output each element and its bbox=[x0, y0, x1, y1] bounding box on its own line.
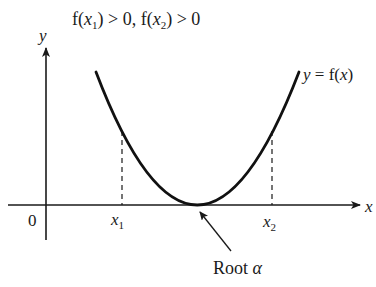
x-axis-label: x bbox=[365, 198, 373, 215]
curve-label-x: x bbox=[340, 65, 348, 84]
curve-f bbox=[96, 72, 299, 205]
title-var-x2: x bbox=[153, 9, 161, 29]
x2-var: x bbox=[263, 212, 271, 231]
y-axis-label: y bbox=[39, 27, 47, 44]
curve-label-y: y bbox=[303, 65, 311, 84]
root-pointer-arrow bbox=[200, 212, 231, 251]
condition-title: f(x1) > 0, f(x2) > 0 bbox=[72, 10, 200, 31]
title-var-x1: x bbox=[84, 9, 92, 29]
curve-label-eq: = f( bbox=[311, 65, 340, 84]
curve-label: y = f(x) bbox=[303, 66, 353, 83]
title-part: ) > 0 bbox=[166, 9, 200, 29]
root-text: Root bbox=[213, 258, 253, 278]
title-part: f( bbox=[72, 9, 84, 29]
curve-label-close: ) bbox=[348, 65, 354, 84]
title-part: ) > 0, f( bbox=[98, 9, 153, 29]
alpha-symbol: α bbox=[253, 258, 262, 278]
origin-label: 0 bbox=[28, 212, 37, 229]
root-alpha-label: Root α bbox=[213, 259, 262, 277]
diagram-canvas bbox=[0, 0, 376, 287]
x2-label: x2 bbox=[263, 213, 276, 233]
x1-sub: 1 bbox=[119, 219, 125, 231]
x2-sub: 2 bbox=[271, 221, 277, 233]
x1-label: x1 bbox=[111, 211, 124, 231]
x1-var: x bbox=[111, 210, 119, 229]
